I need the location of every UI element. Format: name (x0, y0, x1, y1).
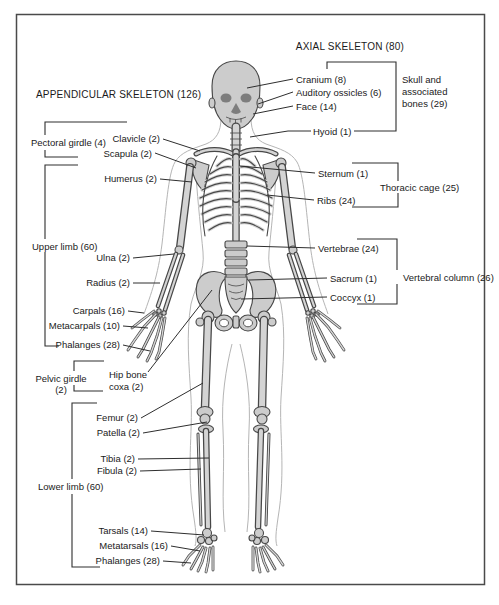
label-tarsals: Tarsals (14) (98, 525, 148, 536)
label-scapula: Scapula (2) (103, 148, 152, 159)
label-radius: Radius (2) (86, 277, 130, 288)
leader-femur (141, 383, 203, 418)
label-skull-group-line1: Skull and (402, 74, 441, 85)
leader-hyoid (250, 131, 311, 137)
label-skull-group-line3: bones (29) (402, 98, 447, 109)
neck-vertebrae (230, 127, 242, 151)
label-phalanges-hand: Phalanges (28) (56, 339, 120, 350)
label-coccyx: Coccyx (1) (330, 292, 375, 303)
label-upper-limb: Upper limb (60) (32, 241, 97, 252)
leader-vertebrae (247, 246, 315, 248)
label-ulna: Ulna (2) (96, 252, 130, 263)
label-humerus: Humerus (2) (104, 173, 157, 184)
leader-clavicle (163, 139, 200, 151)
skeleton-diagram: AXIAL SKELETON (80) APPENDICULAR SKELETO… (0, 0, 499, 605)
title-appendicular-skeleton: APPENDICULAR SKELETON (126) (36, 89, 201, 100)
label-metatarsals: Metatarsals (16) (99, 540, 168, 551)
label-auditory-ossicles: Auditory ossicles (6) (296, 87, 382, 98)
skeleton-diagram-page: AXIAL SKELETON (80) APPENDICULAR SKELETO… (0, 0, 499, 605)
leader-fibula (140, 469, 201, 471)
label-face: Face (14) (296, 101, 337, 112)
leader-patella (143, 422, 207, 433)
label-vertebral-column: Vertebral column (26) (403, 272, 494, 283)
label-sternum: Sternum (1) (318, 168, 368, 179)
label-vertebrae: Vertebrae (24) (318, 243, 379, 254)
label-pelvic-girdle-line1: Pelvic girdle (35, 373, 86, 384)
leader-carpals (128, 311, 144, 313)
label-cranium: Cranium (8) (296, 74, 346, 85)
label-pelvic-girdle-line2: (2) (55, 384, 67, 395)
label-skull-group-line2: associated (402, 86, 447, 97)
label-thoracic-cage: Thoracic cage (25) (380, 182, 459, 193)
label-sacrum: Sacrum (1) (330, 273, 377, 284)
label-carpals: Carpals (16) (73, 305, 125, 316)
label-ribs: Ribs (24) (317, 195, 356, 206)
label-hip-bone-line2: coxa (2) (109, 381, 143, 392)
label-patella: Patella (2) (97, 427, 140, 438)
bracket-upper-limb (45, 165, 78, 346)
skull (209, 61, 263, 129)
skeleton-figure (128, 61, 344, 572)
label-metacarpals: Metacarpals (10) (49, 320, 120, 331)
label-hyoid: Hyoid (1) (313, 126, 352, 137)
label-pectoral-girdle: Pectoral girdle (4) (31, 137, 106, 148)
leader-auditory-ossicles (258, 92, 293, 104)
label-phalanges-foot: Phalanges (28) (96, 555, 160, 566)
label-clavicle: Clavicle (2) (112, 133, 160, 144)
label-lower-limb: Lower limb (60) (38, 481, 103, 492)
label-femur: Femur (2) (96, 412, 138, 423)
label-tibia: Tibia (2) (101, 453, 136, 464)
label-fibula: Fibula (2) (97, 465, 137, 476)
label-hip-bone-line1: Hip bone (109, 369, 147, 380)
leader-ulna (133, 254, 174, 258)
title-axial-skeleton: AXIAL SKELETON (80) (296, 41, 404, 52)
legs (197, 320, 270, 527)
